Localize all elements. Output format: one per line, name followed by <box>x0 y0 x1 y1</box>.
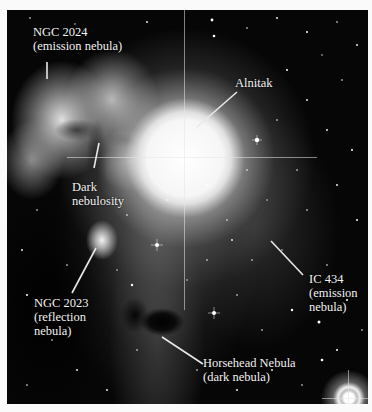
label-horsehead-name: Horsehead Nebula <box>203 356 296 370</box>
label-ngc2023-type1: (reflection <box>34 310 89 324</box>
star-field <box>7 10 368 404</box>
astronomical-photo: NGC 2024 (emission nebula) Alnitak Dark … <box>7 10 368 404</box>
label-dark-nebulosity: Dark nebulosity <box>72 180 124 208</box>
label-ic434-type1: (emission <box>309 286 358 300</box>
label-ngc2024: NGC 2024 (emission nebula) <box>33 25 122 53</box>
label-ic434-type2: nebula) <box>309 300 358 314</box>
label-dark-nebulosity-line2: nebulosity <box>72 194 124 208</box>
label-ic434-name: IC 434 <box>309 272 358 286</box>
label-dark-nebulosity-line1: Dark <box>72 180 124 194</box>
label-ngc2023: NGC 2023 (reflection nebula) <box>34 296 89 338</box>
label-ngc2023-name: NGC 2023 <box>34 296 89 310</box>
label-alnitak: Alnitak <box>235 76 273 90</box>
label-horsehead: Horsehead Nebula (dark nebula) <box>203 356 296 384</box>
label-ic434: IC 434 (emission nebula) <box>309 272 358 314</box>
label-horsehead-type: (dark nebula) <box>203 370 296 384</box>
label-ngc2024-type: (emission nebula) <box>33 39 122 53</box>
label-ngc2024-name: NGC 2024 <box>33 25 122 39</box>
label-ngc2023-type2: nebula) <box>34 324 89 338</box>
label-alnitak-name: Alnitak <box>235 76 273 90</box>
